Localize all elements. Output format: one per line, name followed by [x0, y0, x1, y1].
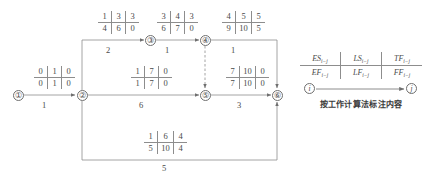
legend-tf-cell: TFi−j [382, 52, 422, 65]
legend-ef-sub: i−j [322, 72, 329, 78]
legend-ls-sub: i−j [362, 58, 369, 64]
lf-cell: 6 [112, 23, 126, 34]
activity-2-5-values: 1 7 0 1 7 0 [131, 66, 172, 89]
legend-formula-grid: ESi−j LSi−j TFi−j EFi−j LFi−j FFi−j [300, 52, 422, 79]
node-3[interactable]: ③ [145, 35, 156, 46]
ff-cell: 0 [256, 78, 269, 89]
node-2[interactable]: ② [77, 90, 88, 101]
ef-cell: 6 [157, 23, 171, 34]
ff-cell: 5 [252, 23, 265, 34]
ef-cell: 0 [34, 78, 48, 89]
activity-3-4-values: 3 4 3 6 7 0 [157, 11, 198, 34]
activity-3-4-duration: 1 [147, 46, 187, 55]
legend-tf-sub: i−j [403, 58, 410, 64]
notation-legend: ESi−j LSi−j TFi−j EFi−j LFi−j FFi−j [300, 52, 422, 109]
tf-cell: 5 [252, 11, 265, 22]
es-cell: 3 [157, 11, 171, 22]
activity-5-6-values: 7 10 0 7 10 0 [226, 66, 269, 89]
lf-cell: 1 [48, 78, 62, 89]
legend-ef-cell: EFi−j [300, 66, 341, 79]
legend-lf-cell: LFi−j [341, 66, 382, 79]
ef-cell: 5 [144, 143, 158, 154]
legend-ff-cell: FFi−j [382, 66, 422, 79]
lf-cell: 10 [158, 143, 174, 154]
legend-lf-sub: i−j [362, 72, 369, 78]
lf-cell: 7 [171, 23, 185, 34]
network-diagram-canvas: ① ② ③ ④ ⑤ ⑥ 0 1 0 0 1 0 1 1 3 3 4 6 0 2 [0, 0, 425, 182]
ls-cell: 5 [236, 11, 252, 22]
ef-cell: 9 [222, 23, 236, 34]
lf-cell: 10 [240, 78, 256, 89]
ls-cell: 1 [48, 66, 62, 77]
legend-ff-symbol: FF [394, 68, 404, 77]
activity-2-6-duration: 5 [144, 164, 184, 173]
ef-cell: 1 [131, 78, 145, 89]
legend-es-cell: ESi−j [300, 52, 341, 65]
tf-cell: 0 [256, 66, 269, 77]
ls-cell: 3 [112, 11, 126, 22]
legend-caption: 按工作计算法标注内容 [300, 98, 422, 109]
ef-cell: 4 [98, 23, 112, 34]
tf-cell: 0 [159, 66, 172, 77]
ls-cell: 10 [240, 66, 256, 77]
activity-1-2-values: 0 1 0 0 1 0 [34, 66, 75, 89]
activity-4-6-duration: 1 [213, 46, 253, 55]
legend-ls-symbol: LS [353, 54, 361, 63]
activity-5-6-duration: 3 [219, 101, 259, 110]
activity-2-3-duration: 2 [88, 46, 128, 55]
es-cell: 1 [144, 131, 158, 142]
tf-cell: 0 [62, 66, 75, 77]
legend-node-j: j [406, 83, 417, 94]
node-1[interactable]: ① [13, 90, 24, 101]
es-cell: 0 [34, 66, 48, 77]
activity-4-6-values: 4 5 5 9 10 5 [222, 11, 265, 34]
ef-cell: 7 [226, 78, 240, 89]
legend-ff-sub: i−j [404, 72, 411, 78]
es-cell: 1 [131, 66, 145, 77]
tf-cell: 4 [174, 131, 187, 142]
legend-ls-cell: LSi−j [341, 52, 382, 65]
legend-ef-symbol: EF [312, 68, 322, 77]
tf-cell: 3 [185, 11, 198, 22]
legend-lf-symbol: LF [353, 68, 362, 77]
es-cell: 7 [226, 66, 240, 77]
legend-arrow-row: i j [300, 81, 422, 97]
ff-cell: 0 [126, 23, 139, 34]
tf-cell: 3 [126, 11, 139, 22]
ls-cell: 7 [145, 66, 159, 77]
activity-2-5-duration: 6 [121, 101, 161, 110]
es-cell: 1 [98, 11, 112, 22]
legend-node-i: i [304, 83, 315, 94]
ff-cell: 0 [159, 78, 172, 89]
ls-cell: 6 [158, 131, 174, 142]
lf-cell: 7 [145, 78, 159, 89]
activity-2-3-values: 1 3 3 4 6 0 [98, 11, 139, 34]
activity-1-2-duration: 1 [24, 101, 64, 110]
legend-es-symbol: ES [312, 54, 321, 63]
activity-2-6-values: 1 6 4 5 10 4 [144, 131, 187, 154]
node-6[interactable]: ⑥ [272, 90, 283, 101]
ff-cell: 0 [185, 23, 198, 34]
ff-cell: 4 [174, 143, 187, 154]
es-cell: 4 [222, 11, 236, 22]
lf-cell: 10 [236, 23, 252, 34]
ls-cell: 4 [171, 11, 185, 22]
node-5[interactable]: ⑤ [200, 90, 211, 101]
legend-es-sub: i−j [321, 58, 328, 64]
node-4[interactable]: ④ [200, 35, 211, 46]
legend-tf-symbol: TF [394, 54, 403, 63]
ff-cell: 0 [62, 78, 75, 89]
